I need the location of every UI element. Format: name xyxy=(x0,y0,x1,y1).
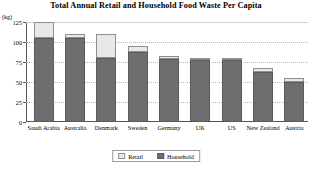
bar-segment-retail xyxy=(253,68,273,72)
bar-segment-household xyxy=(65,38,85,122)
bar-uk[interactable] xyxy=(190,58,210,122)
chart-legend: RetailHousehold xyxy=(112,150,200,162)
bar-segment-retail xyxy=(128,46,148,52)
bar-sweden[interactable] xyxy=(128,46,148,122)
bar-segment-retail xyxy=(34,22,54,38)
y-axis-tick-label: 100 xyxy=(0,39,22,46)
y-axis-tick-label: 0 xyxy=(0,119,22,126)
bar-denmark[interactable] xyxy=(96,34,116,122)
gridline xyxy=(26,22,308,23)
bar-australia[interactable] xyxy=(65,34,85,122)
chart-container: Total Annual Retail and Household Food W… xyxy=(0,0,312,170)
bar-segment-retail xyxy=(190,58,210,60)
chart-title: Total Annual Retail and Household Food W… xyxy=(0,1,312,10)
x-axis-label: Austria xyxy=(271,124,312,132)
bar-segment-household xyxy=(96,58,116,122)
bar-us[interactable] xyxy=(222,58,242,122)
bar-segment-household xyxy=(253,72,273,122)
plot-area xyxy=(26,22,308,122)
bar-segment-household xyxy=(284,82,304,122)
bar-segment-retail xyxy=(96,34,116,58)
bar-segment-retail xyxy=(65,34,85,38)
bar-austria[interactable] xyxy=(284,78,304,122)
y-axis-tick-label: 50 xyxy=(0,79,22,86)
bar-segment-retail xyxy=(159,56,179,58)
bar-segment-retail xyxy=(284,78,304,82)
bar-segment-retail xyxy=(222,58,242,60)
bar-segment-household xyxy=(222,60,242,122)
y-axis-tick-label: 25 xyxy=(0,99,22,106)
legend-label: Retail xyxy=(128,153,143,160)
bar-segment-household xyxy=(34,38,54,122)
legend-swatch-retail xyxy=(118,153,125,159)
bar-germany[interactable] xyxy=(159,56,179,122)
y-axis-tick-label: 75 xyxy=(0,59,22,66)
y-axis-tick-mark xyxy=(23,122,26,123)
bar-new-zealand[interactable] xyxy=(253,68,273,122)
bar-segment-household xyxy=(159,59,179,122)
bar-saudi-arabia[interactable] xyxy=(34,22,54,122)
legend-swatch-household xyxy=(157,153,164,159)
bar-segment-household xyxy=(190,60,210,122)
bar-segment-household xyxy=(128,52,148,122)
legend-label: Household xyxy=(167,153,194,160)
y-axis-tick-label: 125 xyxy=(0,19,22,26)
legend-item-retail[interactable]: Retail xyxy=(118,153,143,160)
legend-item-household[interactable]: Household xyxy=(157,153,194,160)
